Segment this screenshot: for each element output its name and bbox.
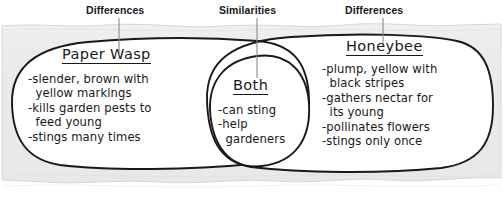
callout-label-differences-right: Differences: [345, 4, 403, 16]
right-circle-heading: Honeybee: [346, 39, 423, 56]
left-circle-items: -slender, brown with yellow markings -ki…: [28, 72, 151, 144]
center-circle-heading: Both: [233, 78, 268, 95]
venn-diagram-figure: Differences Similarities Differences Pap…: [0, 0, 503, 198]
right-circle-items: -plump, yellow with black stripes -gathe…: [322, 62, 437, 148]
callout-label-similarities: Similarities: [219, 4, 276, 16]
callout-label-differences-left: Differences: [86, 4, 144, 16]
center-circle-items: -can sting -help gardeners: [218, 103, 285, 146]
left-circle-heading: Paper Wasp: [62, 47, 151, 64]
